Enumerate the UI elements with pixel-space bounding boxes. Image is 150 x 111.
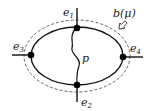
label-e2: e2 — [81, 96, 93, 110]
diagram-canvas: e1 e2 e3 e4 p b(μ) — [0, 0, 150, 111]
path-p — [72, 27, 80, 85]
label-e4: e4 — [130, 42, 141, 56]
vertex-bottom — [74, 82, 81, 89]
label-path-p: p — [82, 52, 89, 65]
label-e1: e1 — [63, 6, 74, 20]
vertex-left — [28, 52, 35, 59]
vertex-top — [74, 25, 81, 32]
label-boundary: b(μ) — [113, 7, 136, 20]
vertex-right — [120, 54, 127, 61]
label-e3: e3 — [13, 40, 25, 54]
boundary-arrow-icon — [116, 20, 128, 32]
graph-diagram: e1 e2 e3 e4 p b(μ) — [0, 0, 150, 111]
